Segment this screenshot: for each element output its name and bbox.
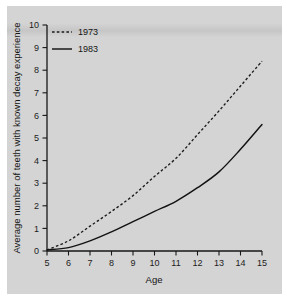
series-line-1983 [47,124,262,249]
y-tick-label: 6 [34,111,39,121]
y-axis-title: Average number of teeth with known decay… [11,22,22,253]
y-axis-ticks: 0 1 2 3 4 5 6 7 8 9 10 [29,20,47,256]
line-chart: 0 1 2 3 4 5 6 7 8 9 10 5 [0,0,287,299]
x-tick-label: 6 [66,258,71,268]
y-tick-label: 0 [34,246,39,256]
axes-group [47,25,262,251]
x-tick-label: 13 [214,258,224,268]
y-tick-label: 10 [29,20,39,30]
y-tick-label: 2 [34,201,39,211]
legend-label-1973: 1973 [78,27,98,37]
y-tick-label: 7 [34,88,39,98]
figure-container: 0 1 2 3 4 5 6 7 8 9 10 5 [0,0,287,299]
x-tick-label: 10 [149,258,159,268]
x-axis-title: Age [146,274,163,285]
series-line-1973 [47,61,262,250]
series-group [47,61,262,250]
y-tick-label: 9 [34,43,39,53]
chart-legend: 1973 1983 [52,27,98,54]
x-tick-label: 9 [130,258,135,268]
legend-label-1983: 1983 [78,44,98,54]
x-tick-label: 15 [257,258,267,268]
y-tick-label: 4 [34,156,39,166]
x-tick-label: 12 [192,258,202,268]
x-tick-label: 5 [44,258,49,268]
y-tick-label: 8 [34,65,39,75]
y-tick-label: 3 [34,178,39,188]
x-tick-label: 11 [171,258,180,268]
x-tick-label: 14 [235,258,245,268]
x-axis-ticks: 5 6 7 8 9 10 11 12 13 14 15 [44,251,267,268]
x-tick-label: 8 [109,258,114,268]
y-tick-label: 1 [34,224,39,234]
y-tick-label: 5 [34,133,39,143]
x-tick-label: 7 [87,258,92,268]
